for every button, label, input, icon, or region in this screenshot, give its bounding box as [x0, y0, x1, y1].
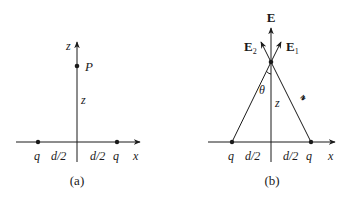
field-point-dot	[269, 60, 274, 65]
charge-right-dot-a	[115, 140, 119, 144]
charge-right-dot-b	[309, 140, 313, 144]
caption-b: (b)	[264, 173, 279, 188]
theta-arc	[267, 72, 272, 75]
half-distance-left-label-b: d/2	[245, 149, 260, 163]
field-e2-letter: E	[244, 39, 253, 54]
field-e1-letter: E	[286, 39, 295, 54]
height-z-label-a: z	[80, 93, 86, 107]
x-axis-label-b: x	[327, 149, 334, 163]
half-distance-right-label-a: d/2	[90, 149, 105, 163]
point-p-dot	[75, 64, 80, 69]
diagram-canvas: z P z q d/2 d/2 q x (a) E E2 E1 θ z 𝓇 q	[0, 0, 348, 201]
x-axis-label-a: x	[132, 149, 139, 163]
point-p-label: P	[84, 59, 93, 74]
height-z-label-b: z	[274, 96, 280, 110]
charge-left-dot-b	[230, 140, 234, 144]
field-e2-arrow	[261, 42, 271, 62]
distance-r-label: 𝓇	[300, 89, 306, 103]
field-e1-arrow	[271, 42, 281, 62]
half-distance-right-label-b: d/2	[283, 149, 298, 163]
field-e2-subscript: 2	[253, 47, 257, 56]
separation-line-left	[232, 62, 271, 142]
charge-left-label-a: q	[34, 149, 40, 163]
field-e-net-label: E	[267, 10, 276, 25]
half-distance-left-label-a: d/2	[51, 149, 66, 163]
field-e1-subscript: 1	[295, 47, 299, 56]
caption-a: (a)	[70, 173, 84, 188]
theta-label: θ	[259, 83, 265, 97]
charge-left-label-b: q	[228, 149, 234, 163]
field-e2-label: E2	[244, 39, 257, 56]
panel-b: E E2 E1 θ z 𝓇 q d/2 d/2 q x (b)	[208, 10, 335, 188]
charge-left-dot-a	[36, 140, 40, 144]
charge-right-label-a: q	[113, 149, 119, 163]
charge-right-label-b: q	[306, 149, 312, 163]
z-axis-label-a: z	[65, 39, 71, 53]
panel-a: z P z q d/2 d/2 q x (a)	[16, 39, 140, 188]
field-e1-label: E1	[286, 39, 299, 56]
